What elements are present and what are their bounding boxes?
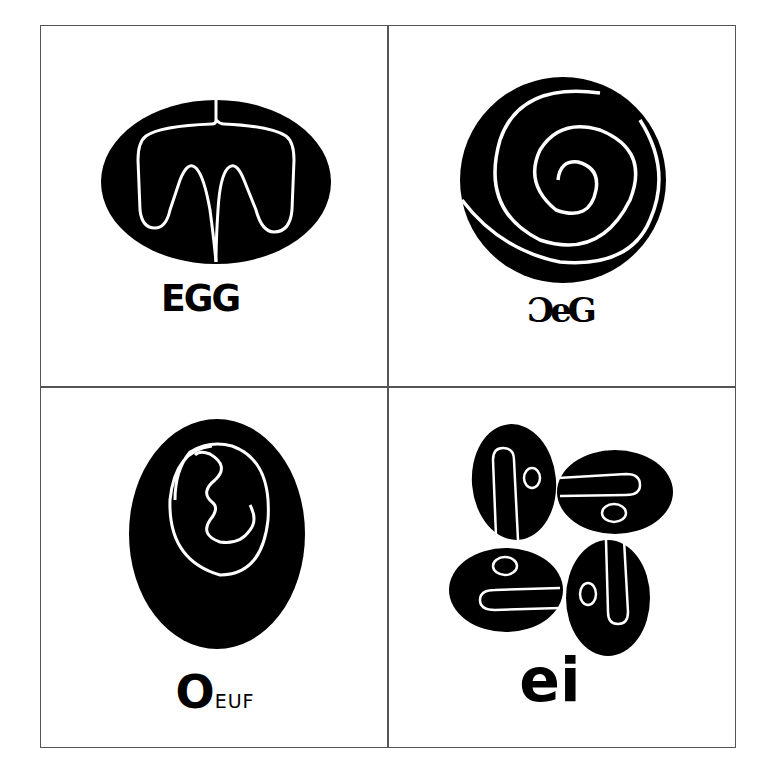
- label-egg: EGG: [143, 276, 257, 320]
- artwork: [0, 0, 773, 764]
- egg-glyph-ei: [449, 421, 673, 656]
- label-oeuf-initial: O: [176, 665, 215, 719]
- egg-glyph-oeuf: [129, 419, 305, 649]
- label-ei: ei: [505, 650, 595, 710]
- egg-glyph-english: [101, 96, 331, 264]
- label-oeuf: OEUF: [160, 665, 270, 719]
- label-ornamental: ƆeG: [500, 290, 620, 330]
- egg-glyph-spiral: [460, 77, 666, 283]
- label-oeuf-rest: EUF: [215, 690, 255, 712]
